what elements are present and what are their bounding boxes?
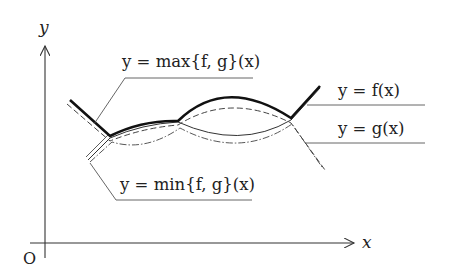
label-g: y = g(x) [337,119,404,138]
label-max: y = max{f, g}(x) [121,52,260,71]
diagram-canvas: y x O y = max{f, g}(x) y = f(x) y = g(x)… [0,0,449,275]
label-min: y = min{f, g}(x) [119,175,255,194]
curve-g [88,88,320,160]
leader-max [94,78,253,124]
origin-label: O [23,249,36,268]
curve-g-left-double [86,135,108,157]
y-axis-label: y [38,17,49,37]
x-axis-label: x [362,232,372,252]
label-f: y = f(x) [337,81,400,100]
